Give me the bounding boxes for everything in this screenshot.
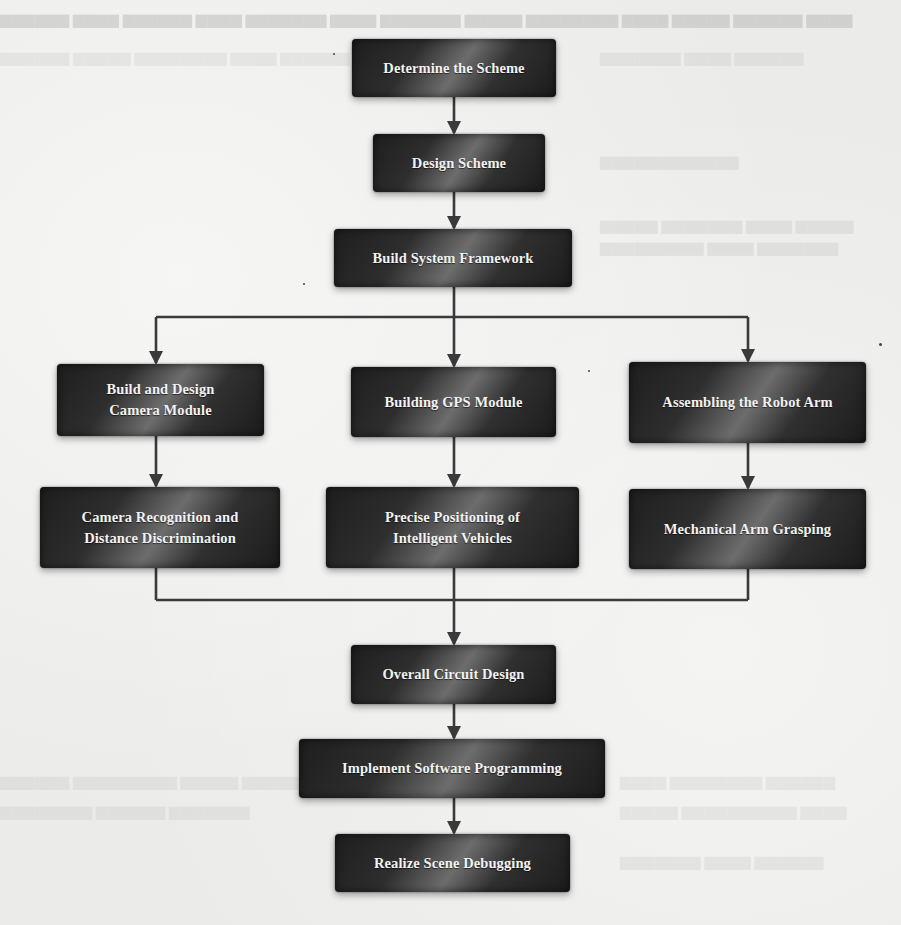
scan-speck — [588, 370, 590, 372]
node-precise-positioning-of-intelligent-vehicles: Precise Positioning of Intelligent Vehic… — [326, 487, 579, 568]
arrowhead-icon — [447, 632, 461, 646]
node-label: Assembling the Robot Arm — [662, 392, 832, 413]
node-overall-circuit-design: Overall Circuit Design — [351, 645, 556, 704]
node-label: Implement Software Programming — [342, 758, 562, 779]
arrowhead-icon — [741, 349, 755, 363]
node-design-scheme: Design Scheme — [373, 134, 545, 192]
node-label-line-1: Camera Recognition and — [82, 507, 239, 528]
node-assembling-the-robot-arm: Assembling the Robot Arm — [629, 362, 866, 443]
arrowhead-icon — [447, 354, 461, 368]
arrowhead-icon — [447, 121, 461, 135]
arrowhead-icon — [447, 216, 461, 230]
arrowhead-icon — [149, 474, 163, 488]
node-mechanical-arm-grasping: Mechanical Arm Grasping — [629, 489, 866, 569]
node-camera-recognition-and-distance-discrimination: Camera Recognition and Distance Discrimi… — [40, 487, 280, 568]
arrowhead-icon — [741, 476, 755, 490]
node-label: Design Scheme — [412, 153, 506, 174]
node-label: Building GPS Module — [384, 392, 522, 413]
node-realize-scene-debugging: Realize Scene Debugging — [335, 834, 570, 892]
node-implement-software-programming: Implement Software Programming — [299, 739, 605, 798]
node-label: Determine the Scheme — [383, 58, 524, 79]
node-build-system-framework: Build System Framework — [334, 229, 572, 287]
scan-speck — [303, 283, 305, 285]
scan-speck — [333, 53, 335, 55]
node-label-line-2: Intelligent Vehicles — [393, 528, 512, 549]
node-label: Realize Scene Debugging — [374, 853, 531, 874]
arrowhead-icon — [149, 351, 163, 365]
node-label-line-2: Camera Module — [109, 400, 211, 421]
node-building-gps-module: Building GPS Module — [351, 367, 556, 437]
node-label: Build System Framework — [373, 248, 534, 269]
node-label-line-2: Distance Discrimination — [84, 528, 236, 549]
node-label: Overall Circuit Design — [382, 664, 524, 685]
node-label-line-1: Build and Design — [107, 379, 215, 400]
node-build-and-design-camera-module: Build and Design Camera Module — [57, 364, 264, 436]
arrowhead-icon — [447, 474, 461, 488]
arrowhead-icon — [447, 726, 461, 740]
node-label-line-1: Precise Positioning of — [385, 507, 520, 528]
scan-speck — [879, 343, 882, 346]
node-determine-the-scheme: Determine the Scheme — [352, 39, 556, 97]
arrowhead-icon — [447, 821, 461, 835]
node-label: Mechanical Arm Grasping — [664, 519, 831, 540]
